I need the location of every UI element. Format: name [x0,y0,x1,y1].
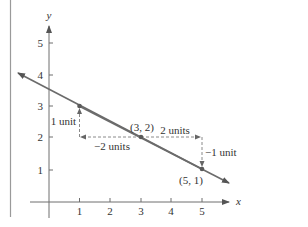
y-axis: 1 2 3 4 5 y [38,9,54,218]
annotation-rise-left: 1 unit [51,115,76,127]
x-tick-label: 3 [138,205,144,217]
x-tick-label: 5 [199,205,205,217]
x-axis: 1 2 3 4 5 x [30,195,241,217]
annotation-run-left: −2 units [94,140,130,152]
x-tick-label: 4 [168,205,174,217]
point-1-3 [77,104,82,109]
y-tick-label: 2 [38,131,44,143]
point-3-2 [139,135,144,140]
y-tick-label: 4 [38,69,44,81]
point-5-1 [200,167,205,172]
x-tick-label: 2 [107,205,113,217]
annotation-rise-right: −1 unit [205,146,237,158]
y-axis-label: y [46,9,52,21]
x-tick-label: 1 [77,205,83,217]
y-tick-label: 1 [38,164,44,176]
x-axis-label: x [235,195,241,207]
point-label-3-2: (3, 2) [130,121,154,134]
slope-diagram: 1 2 3 4 5 x 1 2 3 4 5 y (3, 2) (5, 1) 1 … [0,0,308,227]
y-tick-label: 3 [38,100,44,112]
point-label-5-1: (5, 1) [179,174,203,187]
annotation-run-right: 2 units [160,124,190,136]
y-tick-label: 5 [38,37,44,49]
